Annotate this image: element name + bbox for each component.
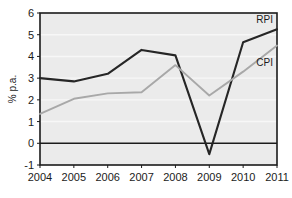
line-chart: 6543210-1 200420052006200720082009201020… [0,0,292,198]
x-tick-label: 2004 [28,171,52,183]
x-tick-label: 2010 [231,171,255,183]
series-label-cpi: CPI [256,57,273,68]
x-tick-label: 2008 [163,171,187,183]
series-label-rpi: RPI [256,14,273,25]
y-axis-title: % p.a. [7,75,18,103]
y-tick-label: 4 [28,50,34,62]
y-tick-label: -1 [24,159,34,171]
x-tick-label: 2006 [95,171,119,183]
x-tick-label: 2007 [129,171,153,183]
x-tick-label: 2011 [265,171,289,183]
x-tick-label: 2005 [62,171,86,183]
y-tick-label: 0 [28,137,34,149]
y-tick-label: 5 [28,29,34,41]
plot-background [40,13,277,165]
y-tick-label: 3 [28,72,34,84]
x-tick-label: 2009 [197,171,221,183]
y-tick-label: 2 [28,94,34,106]
y-tick-label: 6 [28,7,34,19]
y-tick-label: 1 [28,116,34,128]
chart-figure: 6543210-1 200420052006200720082009201020… [0,0,292,198]
